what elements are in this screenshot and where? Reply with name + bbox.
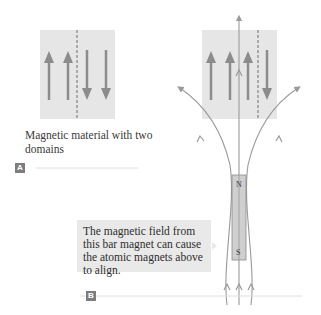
- panel-a-domain-box: [40, 30, 115, 119]
- magnet-north-label: N: [236, 180, 242, 189]
- panel-a-tag: A: [15, 163, 25, 173]
- panel-b-tag: B: [86, 291, 96, 301]
- panel-a-caption: Magnetic material with two domains: [25, 128, 165, 156]
- callout-pointer: [212, 242, 217, 250]
- magnet-south-label: S: [236, 248, 240, 257]
- panel-b-callout: The magnetic field from this bar magnet …: [77, 220, 211, 272]
